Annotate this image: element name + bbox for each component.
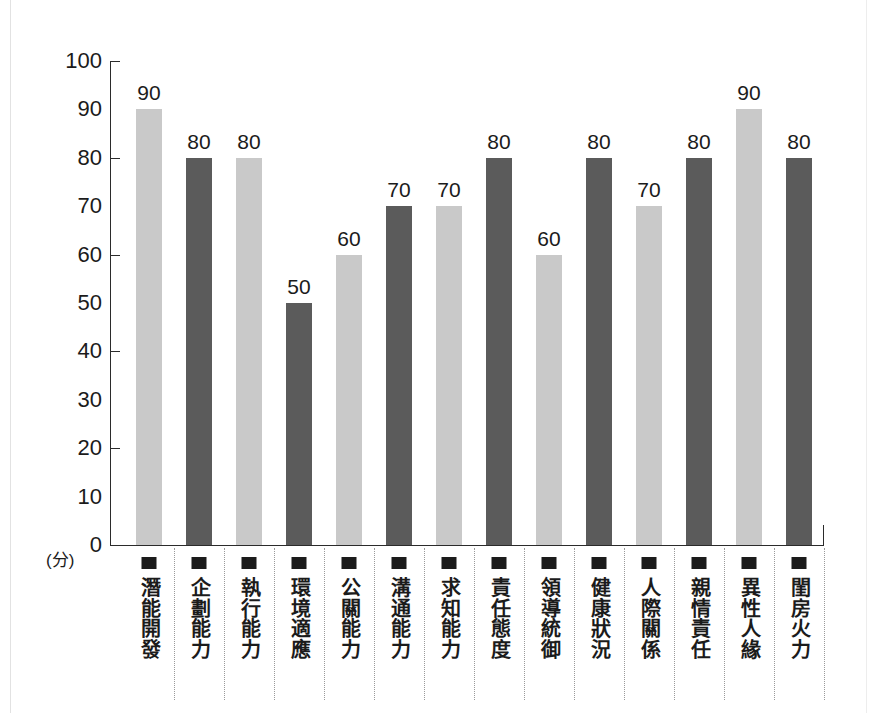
page-edge-line-left xyxy=(10,0,11,713)
bar-column: 70 xyxy=(636,61,662,545)
category-label-cell: 企劃能力 xyxy=(174,546,224,713)
bar-value-label: 60 xyxy=(537,228,560,249)
category-separator xyxy=(524,548,525,700)
bar xyxy=(186,158,212,545)
bar xyxy=(386,206,412,545)
bar-value-label: 70 xyxy=(637,179,660,200)
y-tick-label: 80 xyxy=(78,147,102,169)
category-label: 求知能力 xyxy=(438,577,459,659)
category-label-cell: 潛能開發 xyxy=(124,546,174,713)
category-label: 親情責任 xyxy=(688,577,709,659)
y-tick-label: 60 xyxy=(78,244,102,266)
category-label: 潛能開發 xyxy=(138,577,159,659)
bar-value-label: 80 xyxy=(237,131,260,152)
category-label: 環境適應 xyxy=(288,577,309,659)
category-square-marker-icon xyxy=(392,557,407,569)
category-square-marker-icon xyxy=(792,557,807,569)
bar xyxy=(236,158,262,545)
category-label-cell: 人際關係 xyxy=(624,546,674,713)
bar-value-label: 80 xyxy=(487,131,510,152)
bar-column: 80 xyxy=(786,61,812,545)
bar-column: 50 xyxy=(286,61,312,545)
category-label-cell: 親情責任 xyxy=(674,546,724,713)
bar-column: 80 xyxy=(686,61,712,545)
category-label-cell: 執行能力 xyxy=(224,546,274,713)
bar-value-label: 80 xyxy=(687,131,710,152)
y-tick-label: 50 xyxy=(78,292,102,314)
category-separator xyxy=(374,548,375,700)
y-tick-label: 30 xyxy=(78,389,102,411)
category-label-cell: 責任態度 xyxy=(474,546,524,713)
category-label-cell: 領導統御 xyxy=(524,546,574,713)
category-label-cell: 溝通能力 xyxy=(374,546,424,713)
category-square-marker-icon xyxy=(142,557,157,569)
category-square-marker-icon xyxy=(192,557,207,569)
bar xyxy=(736,109,762,545)
bar-column: 70 xyxy=(386,61,412,545)
y-tick-label: 40 xyxy=(78,340,102,362)
category-square-marker-icon xyxy=(492,557,507,569)
bar-value-label: 80 xyxy=(787,131,810,152)
y-tick-label: 70 xyxy=(78,195,102,217)
category-separator xyxy=(174,548,175,700)
category-label: 執行能力 xyxy=(238,577,259,659)
category-label: 公關能力 xyxy=(338,577,359,659)
category-label-cell: 閨房火力 xyxy=(774,546,824,713)
category-label: 領導統御 xyxy=(538,577,559,659)
bar-value-label: 50 xyxy=(287,276,310,297)
bar xyxy=(136,109,162,545)
bar xyxy=(686,158,712,545)
bar xyxy=(336,255,362,545)
category-axis: 潛能開發企劃能力執行能力環境適應公關能力溝通能力求知能力責任態度領導統御健康狀況… xyxy=(110,546,824,713)
category-separator xyxy=(474,548,475,700)
y-axis-unit-label: (分) xyxy=(46,552,74,569)
bar-value-label: 80 xyxy=(187,131,210,152)
category-square-marker-icon xyxy=(342,557,357,569)
category-label: 企劃能力 xyxy=(188,577,209,659)
category-label: 溝通能力 xyxy=(388,577,409,659)
bar xyxy=(786,158,812,545)
category-separator xyxy=(324,548,325,700)
bar xyxy=(636,206,662,545)
category-separator xyxy=(624,548,625,700)
category-label: 異性人緣 xyxy=(738,577,759,659)
bar-column: 80 xyxy=(586,61,612,545)
category-square-marker-icon xyxy=(642,557,657,569)
category-square-marker-icon xyxy=(692,557,707,569)
category-separator xyxy=(224,548,225,700)
category-separator xyxy=(674,548,675,700)
y-tick-label: 0 xyxy=(90,534,102,556)
category-label: 健康狀況 xyxy=(588,577,609,659)
bar-column: 90 xyxy=(136,61,162,545)
bar xyxy=(486,158,512,545)
category-label: 閨房火力 xyxy=(788,577,809,659)
category-separator xyxy=(724,548,725,700)
bar-value-label: 80 xyxy=(587,131,610,152)
bar-value-label: 70 xyxy=(437,179,460,200)
bar-value-label: 90 xyxy=(737,82,760,103)
bar-column: 90 xyxy=(736,61,762,545)
category-separator xyxy=(424,548,425,700)
category-square-marker-icon xyxy=(742,557,757,569)
category-label-cell: 環境適應 xyxy=(274,546,324,713)
bar-value-label: 90 xyxy=(137,82,160,103)
bar-column: 70 xyxy=(436,61,462,545)
category-label: 責任態度 xyxy=(488,577,509,659)
bar xyxy=(536,255,562,545)
bar xyxy=(586,158,612,545)
bar-column: 60 xyxy=(536,61,562,545)
category-square-marker-icon xyxy=(542,557,557,569)
bar-column: 60 xyxy=(336,61,362,545)
category-square-marker-icon xyxy=(242,557,257,569)
category-label: 人際關係 xyxy=(638,577,659,659)
category-separator xyxy=(824,548,825,700)
bar xyxy=(436,206,462,545)
bar-column: 80 xyxy=(186,61,212,545)
category-separator xyxy=(774,548,775,700)
bar-value-label: 70 xyxy=(387,179,410,200)
category-separator xyxy=(274,548,275,700)
y-tick-label: 10 xyxy=(78,486,102,508)
category-square-marker-icon xyxy=(442,557,457,569)
bar-column: 80 xyxy=(486,61,512,545)
bar-column: 80 xyxy=(236,61,262,545)
